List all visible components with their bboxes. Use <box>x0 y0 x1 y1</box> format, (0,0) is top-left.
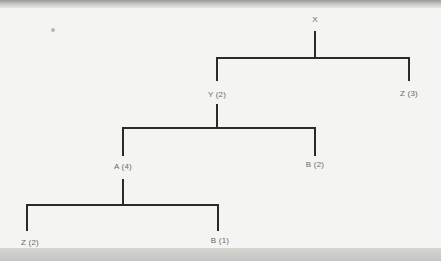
node-y-label: Y (2) <box>208 90 226 99</box>
connector-y <box>123 105 315 155</box>
bottom-border <box>0 248 441 261</box>
connector-x <box>217 32 409 80</box>
tree-connectors <box>0 0 441 261</box>
connector-a <box>27 180 218 230</box>
node-b1-label: B (1) <box>211 236 229 245</box>
node-a-label: A (4) <box>114 162 132 171</box>
node-z3-label: Z (3) <box>400 89 418 98</box>
node-x-label: X <box>312 15 318 24</box>
node-z2-label: Z (2) <box>21 238 39 247</box>
node-b2-label: B (2) <box>306 160 324 169</box>
